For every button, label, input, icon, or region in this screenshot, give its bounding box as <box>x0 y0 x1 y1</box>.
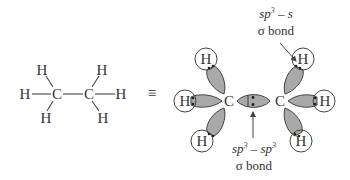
atom-c: C <box>275 93 285 109</box>
label-sp3-s-sigma-bond: sp3 – s σ bond <box>258 6 296 61</box>
orbital-diagram: C C H H H H H H sp3 – s σ bond sp3 – sp3… <box>174 6 335 173</box>
atom-c: C <box>84 86 94 102</box>
atom-h: H <box>320 93 331 109</box>
ethane-diagram: H H H C C H H H ≡ <box>0 0 350 180</box>
atom-h: H <box>97 62 108 78</box>
svg-text:sp3 – sp3: sp3 – sp3 <box>232 141 276 156</box>
atom-h: H <box>296 133 307 149</box>
atom-c: C <box>224 93 234 109</box>
sp3-sp3-overlap <box>237 95 270 108</box>
svg-text:σ bond: σ bond <box>236 158 273 173</box>
atom-h: H <box>41 110 52 126</box>
atom-h: H <box>37 62 48 78</box>
atom-h: H <box>197 133 208 149</box>
arrow-icon <box>280 43 296 61</box>
atom-c: C <box>52 86 62 102</box>
atom-h: H <box>180 93 191 109</box>
atom-h: H <box>20 86 31 102</box>
atom-h: H <box>98 110 109 126</box>
atom-h: H <box>298 51 309 67</box>
svg-text:σ bond: σ bond <box>258 23 295 38</box>
label-sp3-sp3-sigma-bond: sp3 – sp3 σ bond <box>232 112 276 173</box>
equivalence-symbol: ≡ <box>148 85 156 101</box>
atom-h: H <box>116 86 127 102</box>
svg-text:sp3 – s: sp3 – s <box>259 6 293 21</box>
structural-formula: H H H C C H H H <box>20 62 127 126</box>
atom-h: H <box>201 51 212 67</box>
